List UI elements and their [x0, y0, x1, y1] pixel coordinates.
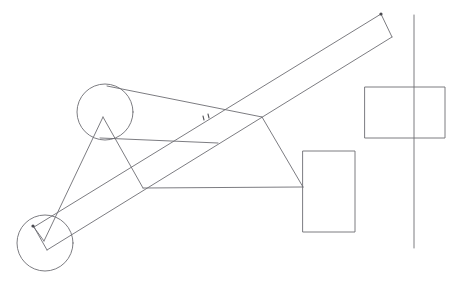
upper-right-rectangle — [365, 87, 445, 138]
beam-top-node — [379, 12, 382, 15]
truss-lines — [33, 86, 303, 241]
sketch-canvas — [0, 0, 455, 284]
upper-circle — [77, 84, 133, 140]
diagram-svg — [0, 0, 455, 284]
hatch-mark-2 — [208, 114, 209, 118]
lower-circle — [17, 215, 73, 271]
diagonal-beam — [34, 14, 392, 250]
beam-edge-lower — [47, 37, 392, 250]
triangle-right-leg — [103, 117, 143, 188]
triangle-left-leg — [44, 117, 103, 241]
lower-circle-chord — [33, 226, 44, 241]
rectangle-group — [303, 87, 445, 232]
circle-group — [17, 84, 133, 271]
beam-cap-top — [381, 14, 392, 37]
beam-hatch-marks — [203, 114, 209, 120]
beam-bottom-node — [31, 224, 34, 227]
lower-horizontal-line — [143, 187, 303, 188]
lower-right-rectangle — [303, 151, 355, 232]
beam-edge-upper — [34, 14, 381, 227]
node-markers — [31, 12, 382, 227]
hatch-mark-1 — [203, 116, 204, 120]
vertex-to-rect-line — [262, 117, 303, 187]
